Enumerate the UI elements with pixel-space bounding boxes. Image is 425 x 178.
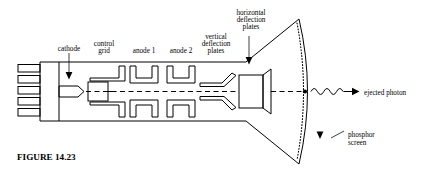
label-anode-1: anode 1 [133,47,156,55]
pin-3 [18,87,40,95]
phosphor-leader-line [331,131,344,138]
pin-1 [18,65,40,73]
pin-5 [18,109,40,117]
sine-wave-icon [311,89,343,95]
label-cathode: cathode [58,45,80,53]
beam-impact-point [303,89,307,93]
vertical-plate-lower [200,97,236,111]
horizontal-plates-flare [263,69,271,114]
tube-base-pins [18,65,40,117]
label-ejected-photon: ejected photon [364,89,407,97]
cathode-leader [66,53,73,80]
pin-2 [18,76,40,84]
cathode-shape [59,86,84,97]
label-phosphor-screen-line2: screen [348,139,367,147]
funnel-bottom-edge [246,121,299,164]
anode-1-element [130,66,158,117]
cathode-arrow-icon [66,72,73,80]
photon-arrow-head [352,88,360,95]
anode-2-lower [167,100,195,117]
pin-4 [18,98,40,106]
label-vertical-deflection-line3: plates [208,47,225,55]
anode-1-upper [130,66,158,83]
photon-wave-icon [311,88,360,95]
phosphor-screen-leader [317,131,344,139]
electron-beam-axis [86,89,307,93]
figure-caption: FIGURE 14.23 [17,152,76,162]
horizontal-deflection-plates [239,69,271,114]
label-control-grid-line2: grid [98,47,110,55]
anode-1-lower [130,100,158,117]
label-anode-2: anode 2 [170,47,193,55]
horizontal-plates-arrow-icon [246,57,253,65]
control-grid-lower-arm [90,102,125,117]
cathode-element [59,86,84,97]
phosphor-arrow-icon [317,132,324,140]
crt-diagram: cathode control grid anode 1 anode 2 ver… [0,0,425,178]
horizontal-plates-box [239,75,263,108]
label-horizontal-deflection-line3: plates [243,23,260,31]
vertical-plate-upper [200,73,236,87]
control-grid-upper-arm [90,66,125,81]
figure-container: cathode control grid anode 1 anode 2 ver… [0,0,425,178]
anode-2-upper [167,66,195,83]
horizontal-plates-leader [246,36,253,65]
label-phosphor-screen-line1: phosphor [348,131,375,139]
